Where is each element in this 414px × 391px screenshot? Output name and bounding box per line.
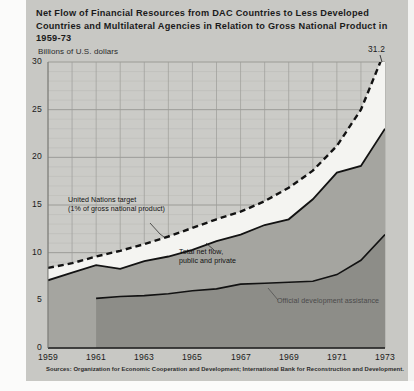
plot-area [0,0,414,391]
y-tick-label-25: 25 [26,104,42,114]
annotation-oda-line-1: Official development assistance [277,297,379,306]
y-tick-label-20: 20 [26,151,42,161]
x-tick-label-1963: 1963 [127,352,161,362]
y-tick-label-30: 30 [26,56,42,66]
annotation-total-net-flow: Total net flow, public and private [179,248,236,265]
chart-figure: Net Flow of Financial Resources from DAC… [0,0,414,391]
annotation-oda: Official development assistance [277,297,379,306]
x-tick-label-1965: 1965 [175,352,209,362]
annotation-un-target-line-2: (1% of gross national product) [68,205,165,214]
annotation-un-target: United Nations target (1% of gross natio… [68,196,165,213]
peak-value-leader-line [380,55,382,62]
x-tick-label-1961: 1961 [79,352,113,362]
annotation-un-target-line-1: United Nations target [68,196,165,205]
y-tick-label-5: 5 [26,294,42,304]
x-tick-label-1959: 1959 [31,352,65,362]
y-tick-label-10: 10 [26,247,42,257]
source-note: Sources: Organization for Economic Coope… [46,366,404,372]
x-tick-label-1967: 1967 [224,352,258,362]
annotation-total-net-flow-line-1: Total net flow, [179,248,236,257]
chart-svg [0,0,414,391]
y-tick-label-15: 15 [26,199,42,209]
annotation-total-net-flow-line-2: public and private [179,257,236,266]
y-tick-label-0: 0 [26,342,42,352]
x-tick-label-1973: 1973 [368,352,402,362]
x-tick-label-1969: 1969 [272,352,306,362]
x-tick-label-1971: 1971 [320,352,354,362]
